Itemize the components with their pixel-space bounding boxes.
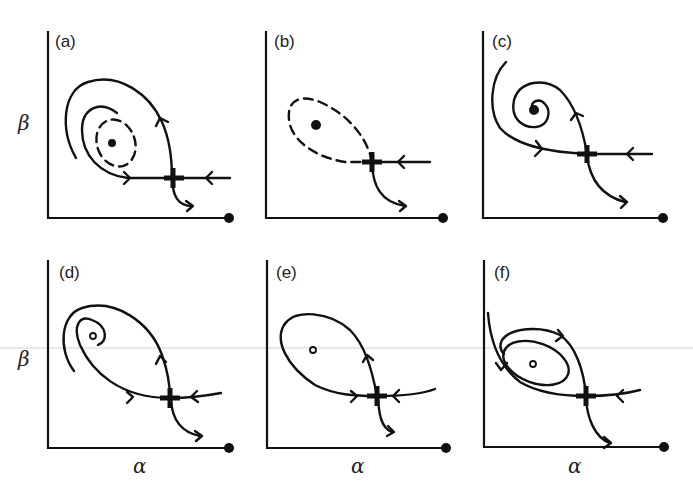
- panel-f: (f) α: [484, 260, 669, 478]
- beta-axis-label: β: [17, 111, 30, 135]
- panel-label-f: (f): [494, 263, 510, 282]
- panel-label-d: (d): [59, 263, 80, 282]
- saddle-point: [577, 145, 597, 163]
- phase-plane-figure: (a) β (b): [0, 0, 693, 492]
- saddle-point: [164, 168, 184, 188]
- interior-equilibrium-open: [310, 347, 316, 353]
- boundary-equilibrium: [224, 443, 234, 453]
- beta-axis-label: β: [17, 347, 30, 371]
- axes: [267, 260, 445, 448]
- arrow-icon: [127, 392, 133, 403]
- homoclinic-orbit: [289, 99, 372, 162]
- unstable-manifold-out: [586, 398, 610, 443]
- interior-equilibrium: [108, 139, 116, 147]
- saddle-point: [362, 152, 382, 172]
- panel-e: (e) α: [267, 260, 451, 478]
- panel-d: (d) β α: [17, 260, 234, 478]
- panel-c: (c): [483, 31, 668, 223]
- stable-manifold: [82, 107, 230, 178]
- alpha-axis-label: α: [133, 454, 147, 478]
- unstable-manifold-out: [372, 164, 405, 206]
- arrow-icon: [617, 390, 623, 402]
- panel-b: (b): [266, 31, 448, 223]
- panel-a: (a) β: [17, 31, 234, 223]
- arrow-icon: [351, 391, 357, 402]
- axes: [484, 260, 663, 447]
- boundary-equilibrium: [438, 213, 448, 223]
- panel-label-c: (c): [492, 32, 512, 51]
- boundary-equilibrium: [658, 213, 668, 223]
- unstable-spiral: [77, 319, 170, 398]
- alpha-axis-label: α: [568, 454, 582, 478]
- saddle-point: [576, 386, 596, 406]
- boundary-equilibrium: [441, 443, 451, 453]
- boundary-equilibrium: [224, 213, 234, 223]
- saddle-point: [160, 388, 180, 408]
- interior-equilibrium: [311, 120, 321, 130]
- interior-equilibrium-open: [530, 361, 536, 367]
- panel-label-e: (e): [276, 263, 297, 282]
- axes: [266, 31, 443, 218]
- homoclinic-loop: [281, 314, 377, 396]
- axes: [48, 31, 228, 218]
- alpha-axis-label: α: [351, 454, 365, 478]
- saddle-point: [367, 386, 387, 406]
- interior-equilibrium: [529, 105, 539, 115]
- panel-label-a: (a): [55, 32, 76, 51]
- axes: [48, 260, 228, 448]
- axes: [483, 31, 663, 218]
- boundary-equilibrium: [659, 442, 669, 452]
- interior-equilibrium-open: [90, 333, 96, 339]
- panel-label-b: (b): [274, 32, 295, 51]
